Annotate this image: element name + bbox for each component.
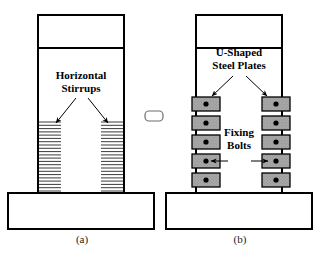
fixing-bolt-icon bbox=[203, 101, 208, 106]
steel-plate bbox=[262, 116, 290, 130]
fixing-bolt-icon bbox=[203, 139, 208, 144]
fixing-bolts-label-line2: Bolts bbox=[227, 139, 252, 151]
between-panels-connector bbox=[145, 111, 163, 121]
steel-plate bbox=[192, 135, 220, 149]
fixing-bolt-icon bbox=[273, 139, 278, 144]
horizontal-stirrups-label-line2: Stirrups bbox=[61, 82, 101, 94]
steel-plate bbox=[192, 116, 220, 130]
steel-plate bbox=[262, 173, 290, 187]
figure-root: Horizontal Stirrups (a) bbox=[0, 0, 322, 258]
steel-plate bbox=[262, 97, 290, 111]
steel-plate-stack-right bbox=[262, 97, 290, 187]
panel-a-column bbox=[38, 15, 124, 193]
fixing-bolt-icon bbox=[273, 101, 278, 106]
panel-b-caption: (b) bbox=[234, 233, 247, 246]
horizontal-stirrups-label-line1: Horizontal bbox=[56, 69, 107, 81]
panel-b-footing bbox=[166, 193, 312, 229]
steel-plate bbox=[192, 173, 220, 187]
u-shaped-steel-plates-label-line2: Steel Plates bbox=[212, 59, 266, 71]
panel-a-footing bbox=[8, 193, 154, 229]
u-shaped-steel-plates-label-line1: U-Shaped bbox=[216, 46, 262, 58]
fixing-bolt-icon bbox=[203, 177, 208, 182]
fixing-bolts-label-line1: Fixing bbox=[224, 126, 254, 138]
fixing-bolt-icon bbox=[273, 177, 278, 182]
fixing-bolt-icon bbox=[273, 120, 278, 125]
column-retrofit-diagram: Horizontal Stirrups (a) bbox=[0, 0, 322, 258]
fixing-bolt-icon bbox=[273, 158, 278, 163]
steel-plate-stack-left bbox=[192, 97, 220, 187]
panel-a-caption: (a) bbox=[76, 233, 89, 246]
fixing-bolt-icon bbox=[203, 120, 208, 125]
fixing-bolt-icon bbox=[203, 158, 208, 163]
steel-plate bbox=[262, 135, 290, 149]
steel-plate bbox=[192, 97, 220, 111]
